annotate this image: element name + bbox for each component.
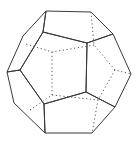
face-top (43, 11, 113, 43)
dodecahedron-figure (0, 0, 140, 143)
face-front (20, 32, 87, 104)
face-lower-left (7, 70, 45, 133)
face-upper-left (7, 11, 46, 72)
dodecahedron-svg (0, 0, 140, 143)
hidden-edges (26, 12, 131, 133)
